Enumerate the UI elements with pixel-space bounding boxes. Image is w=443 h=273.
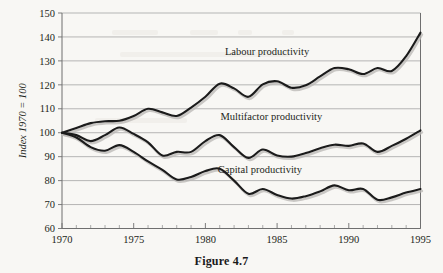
x-tick-label-1980: 1980 xyxy=(195,234,216,245)
x-tick-label-1970: 1970 xyxy=(52,234,73,245)
y-tick-label-110: 110 xyxy=(40,103,55,114)
productivity-line-chart: 60708090100110120130140150 1970197519801… xyxy=(0,0,443,273)
series-label-capital-productivity: Capital productivity xyxy=(218,164,303,175)
x-tick-label-1975: 1975 xyxy=(123,234,144,245)
series-label-labour-productivity: Labour productivity xyxy=(225,46,310,57)
x-tick-labels-group: 197019751980198519901995 xyxy=(52,234,432,245)
y-tick-label-80: 80 xyxy=(45,175,56,186)
x-tick-label-1990: 1990 xyxy=(338,234,359,245)
y-tick-label-150: 150 xyxy=(39,8,55,19)
figure-caption: Figure 4.7 xyxy=(0,254,443,269)
x-tick-label-1985: 1985 xyxy=(267,234,288,245)
gridlines-group xyxy=(62,13,421,205)
y-tick-label-140: 140 xyxy=(39,32,55,43)
y-tick-labels-group: 60708090100110120130140150 xyxy=(39,8,55,235)
y-tick-label-70: 70 xyxy=(45,199,56,210)
y-tick-label-130: 130 xyxy=(39,56,55,67)
y-axis-title: Index 1970 = 100 xyxy=(17,83,28,160)
y-tick-label-120: 120 xyxy=(39,80,55,91)
x-tick-label-1995: 1995 xyxy=(410,234,431,245)
y-tick-label-90: 90 xyxy=(45,151,56,162)
y-axis-title-group: Index 1970 = 100 xyxy=(17,83,28,160)
y-tick-label-100: 100 xyxy=(39,127,55,138)
figure-4-7: 60708090100110120130140150 1970197519801… xyxy=(0,0,443,273)
minor-ticks-group xyxy=(76,225,406,229)
series-label-multifactor-productivity: Multifactor productivity xyxy=(220,111,323,122)
